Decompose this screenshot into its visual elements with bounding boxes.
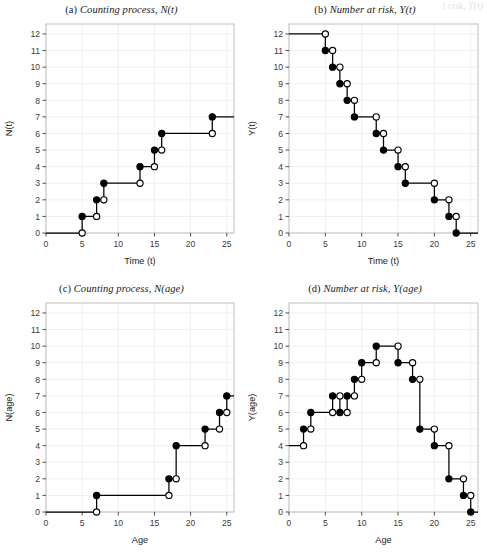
svg-text:7: 7 xyxy=(35,112,40,122)
svg-text:8: 8 xyxy=(35,375,40,385)
svg-text:25: 25 xyxy=(222,518,232,528)
svg-text:25: 25 xyxy=(466,518,476,528)
svg-text:20: 20 xyxy=(186,239,196,249)
svg-text:9: 9 xyxy=(35,358,40,368)
svg-text:15: 15 xyxy=(393,239,403,249)
panel-b-plot: 05101520250123456789101112Time (t)Y(t) xyxy=(243,14,487,279)
svg-text:5: 5 xyxy=(278,145,283,155)
svg-text:7: 7 xyxy=(278,112,283,122)
svg-text:11: 11 xyxy=(274,325,283,335)
svg-text:15: 15 xyxy=(393,518,403,528)
svg-text:Y(t): Y(t) xyxy=(247,121,257,136)
svg-text:11: 11 xyxy=(274,46,283,56)
svg-text:4: 4 xyxy=(35,162,40,172)
svg-text:7: 7 xyxy=(278,391,283,401)
panel-d-number-at-risk-yage: (d) Number at risk, Y(age) 0510152025012… xyxy=(243,279,487,558)
svg-text:0: 0 xyxy=(35,228,40,238)
svg-text:0: 0 xyxy=(35,507,40,517)
svg-text:Time (t): Time (t) xyxy=(368,256,399,266)
svg-text:6: 6 xyxy=(278,408,283,418)
svg-text:1: 1 xyxy=(35,491,40,501)
svg-text:6: 6 xyxy=(35,129,40,139)
svg-text:0: 0 xyxy=(278,507,283,517)
svg-text:2: 2 xyxy=(278,195,283,205)
svg-text:2: 2 xyxy=(35,474,40,484)
svg-text:10: 10 xyxy=(30,341,40,351)
svg-text:0: 0 xyxy=(44,518,49,528)
svg-text:5: 5 xyxy=(35,145,40,155)
svg-text:10: 10 xyxy=(114,239,124,249)
svg-text:7: 7 xyxy=(35,391,40,401)
svg-text:11: 11 xyxy=(31,46,40,56)
svg-text:9: 9 xyxy=(278,79,283,89)
svg-text:Time (t): Time (t) xyxy=(124,256,155,266)
panel-c-counting-process-nage: (c) Counting process, N(age) 05101520250… xyxy=(0,279,243,558)
panel-d-plot: 05101520250123456789101112AgeY(age) xyxy=(243,293,487,558)
svg-text:4: 4 xyxy=(278,162,283,172)
svg-text:3: 3 xyxy=(278,178,283,188)
svg-text:15: 15 xyxy=(150,518,160,528)
svg-text:5: 5 xyxy=(80,239,85,249)
svg-text:5: 5 xyxy=(278,424,283,434)
svg-text:12: 12 xyxy=(273,308,283,318)
svg-text:20: 20 xyxy=(430,239,440,249)
four-panel-step-function-figure: (a) Counting process, N(t) 0510152025012… xyxy=(0,0,487,558)
svg-text:2: 2 xyxy=(278,474,283,484)
svg-text:1: 1 xyxy=(278,491,283,501)
svg-text:6: 6 xyxy=(278,129,283,139)
svg-text:0: 0 xyxy=(287,518,292,528)
svg-text:10: 10 xyxy=(273,341,283,351)
svg-text:10: 10 xyxy=(273,62,283,72)
svg-text:9: 9 xyxy=(278,358,283,368)
svg-text:15: 15 xyxy=(150,239,160,249)
svg-text:9: 9 xyxy=(35,79,40,89)
svg-text:4: 4 xyxy=(278,441,283,451)
svg-text:11: 11 xyxy=(31,325,40,335)
svg-text:0: 0 xyxy=(278,228,283,238)
svg-text:3: 3 xyxy=(278,457,283,467)
svg-text:2: 2 xyxy=(35,195,40,205)
svg-text:0: 0 xyxy=(287,239,292,249)
svg-text:8: 8 xyxy=(278,96,283,106)
svg-text:5: 5 xyxy=(80,518,85,528)
svg-text:10: 10 xyxy=(114,518,124,528)
svg-text:3: 3 xyxy=(35,457,40,467)
svg-text:Age: Age xyxy=(375,535,391,545)
svg-text:20: 20 xyxy=(430,518,440,528)
svg-text:Age: Age xyxy=(132,535,148,545)
svg-text:3: 3 xyxy=(35,178,40,188)
svg-text:1: 1 xyxy=(278,212,283,222)
panel-a-plot: 05101520250123456789101112Time (t)N(t) xyxy=(0,14,243,279)
svg-text:10: 10 xyxy=(357,239,367,249)
svg-text:12: 12 xyxy=(30,308,40,318)
svg-text:0: 0 xyxy=(44,239,49,249)
svg-text:4: 4 xyxy=(35,441,40,451)
svg-text:25: 25 xyxy=(222,239,232,249)
svg-text:N(age): N(age) xyxy=(4,393,14,421)
panel-b-number-at-risk-yt: (b) Number at risk, Y(t) 051015202501234… xyxy=(243,0,487,279)
svg-text:10: 10 xyxy=(357,518,367,528)
panel-c-plot: 05101520250123456789101112AgeN(age) xyxy=(0,293,243,558)
svg-text:1: 1 xyxy=(35,212,40,222)
svg-text:6: 6 xyxy=(35,408,40,418)
svg-text:N(t): N(t) xyxy=(4,121,14,136)
svg-text:20: 20 xyxy=(186,518,196,528)
svg-text:Y(age): Y(age) xyxy=(247,394,257,422)
svg-text:12: 12 xyxy=(30,29,40,39)
svg-text:5: 5 xyxy=(323,518,328,528)
svg-text:8: 8 xyxy=(35,96,40,106)
svg-text:8: 8 xyxy=(278,375,283,385)
svg-text:25: 25 xyxy=(466,239,476,249)
panel-a-counting-process-nt: (a) Counting process, N(t) 0510152025012… xyxy=(0,0,243,279)
svg-text:5: 5 xyxy=(35,424,40,434)
svg-text:5: 5 xyxy=(323,239,328,249)
svg-text:10: 10 xyxy=(30,62,40,72)
svg-text:12: 12 xyxy=(273,29,283,39)
